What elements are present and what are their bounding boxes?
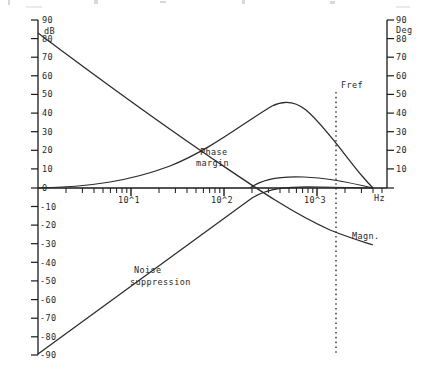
left-tick-50: 50 [42, 89, 53, 99]
magnitude-label: Magn. [352, 231, 380, 241]
scan-artifact [160, 1, 166, 3]
fref-label: Fref [341, 80, 363, 90]
left-tick-m40: -40 [40, 258, 57, 268]
right-tick-90: 90 [396, 15, 407, 25]
scan-artifact [26, 6, 42, 8]
right-axis-unit-deg: Deg [396, 25, 413, 35]
right-tick-40: 40 [396, 108, 407, 118]
left-tick-m80: -80 [40, 332, 57, 342]
left-tick-m20: -20 [40, 220, 57, 230]
noise-suppression-label-line1: Noise [134, 265, 162, 275]
left-tick-40: 40 [42, 108, 53, 118]
bode-plot-figure: 90 80 70 60 50 40 30 20 10 0 -10 -20 -30… [0, 0, 424, 367]
right-axis [387, 20, 394, 188]
scan-artifact [242, 0, 245, 4]
scan-artifact [330, 1, 335, 4]
noise-suppression-label: Noise suppression [130, 265, 191, 287]
scan-artifact [396, 6, 410, 8]
left-tick-m10: -10 [40, 202, 57, 212]
left-tick-10: 10 [42, 164, 53, 174]
noise-suppression-label-line2: suppression [130, 277, 191, 287]
left-tick-m50: -50 [40, 276, 57, 286]
left-axis-unit-db: dB [44, 26, 55, 36]
right-tick-50: 50 [396, 89, 407, 99]
left-tick-90: 90 [42, 15, 53, 25]
scan-artifact [8, 0, 10, 5]
phase-margin-curve [38, 103, 373, 188]
right-tick-70: 70 [396, 52, 407, 62]
left-tick-60: 60 [42, 71, 53, 81]
left-tick-30: 30 [42, 127, 53, 137]
right-tick-80: 80 [396, 34, 407, 44]
phase-margin-label-line2: margin [196, 158, 229, 168]
left-axis [31, 20, 38, 355]
right-tick-20: 20 [396, 145, 407, 155]
x-tick-label-10e1: 10^1 [118, 195, 140, 205]
left-tick-70: 70 [42, 52, 53, 62]
plot-canvas: 90 80 70 60 50 40 30 20 10 0 -10 -20 -30… [0, 0, 424, 367]
left-tick-20: 20 [42, 145, 53, 155]
right-tick-10: 10 [396, 164, 407, 174]
phase-margin-label-line1: Phase [200, 147, 228, 157]
noise-suppression-curve [38, 187, 373, 354]
right-tick-60: 60 [396, 71, 407, 81]
magnitude-curve [38, 33, 373, 245]
x-tick-label-10e2: 10^2 [211, 195, 233, 205]
scan-artifact [94, 0, 98, 4]
left-tick-m30: -30 [40, 239, 57, 249]
x-axis-unit-hz: Hz [374, 193, 385, 203]
left-tick-m70: -70 [40, 313, 57, 323]
right-tick-30: 30 [396, 127, 407, 137]
x-tick-label-10e3: 10^3 [304, 195, 326, 205]
left-tick-m60: -60 [40, 295, 57, 305]
phase-margin-label: Phase margin [196, 147, 229, 168]
